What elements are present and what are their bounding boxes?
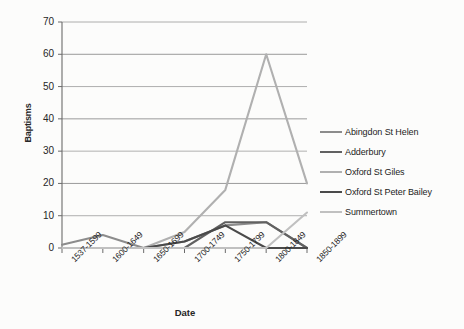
legend-line-swatch	[320, 171, 342, 174]
legend-label: Summertown	[345, 207, 397, 217]
legend-label: Oxford St Peter Bailey	[345, 187, 432, 197]
legend-item: Adderbury	[320, 142, 462, 162]
legend-label: Abingdon St Helen	[345, 127, 418, 137]
legend-line-swatch	[320, 151, 342, 154]
legend-item: Oxford St Peter Bailey	[320, 182, 462, 202]
legend-label: Adderbury	[345, 147, 386, 157]
legend-item: Abingdon St Helen	[320, 122, 462, 142]
x-axis-title: Date	[62, 307, 308, 318]
legend-line-swatch	[320, 211, 342, 214]
baptisms-line-chart: Baptisms 010203040506070 1537-15991600-1…	[0, 0, 464, 329]
legend-item: Oxford St Giles	[320, 162, 462, 182]
legend-line-swatch	[320, 131, 342, 134]
series-line	[62, 213, 307, 249]
legend-label: Oxford St Giles	[345, 167, 405, 177]
chart-legend: Abingdon St HelenAdderburyOxford St Gile…	[320, 122, 462, 222]
legend-item: Summertown	[320, 202, 462, 222]
legend-line-swatch	[320, 191, 342, 194]
